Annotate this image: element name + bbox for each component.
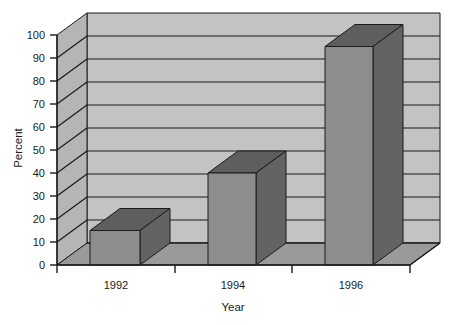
y-axis-title: Percent (12, 127, 24, 167)
bar-1994-front (208, 173, 256, 265)
y-tick-label: 0 (39, 259, 45, 271)
bar-1996-front (325, 47, 373, 266)
y-tick-label: 50 (33, 144, 45, 156)
y-tick-label: 90 (33, 52, 45, 64)
bar-1994[interactable] (208, 151, 286, 265)
y-tick-label: 100 (27, 29, 45, 41)
y-tick-labels: 100 90 80 70 60 50 40 30 20 10 0 (27, 29, 45, 271)
x-tick-label-1996: 1996 (339, 279, 363, 291)
chart-3d-scene (50, 13, 440, 273)
bar-1996[interactable] (325, 25, 403, 266)
x-tick-labels: 1992 1994 1996 (104, 279, 363, 291)
y-tick-marks (50, 35, 57, 265)
chart-canvas: 100 90 80 70 60 50 40 30 20 10 0 1992 19… (0, 0, 453, 325)
y-tick-label: 20 (33, 213, 45, 225)
x-tick-label-1994: 1994 (221, 279, 245, 291)
y-tick-label: 80 (33, 75, 45, 87)
y-tick-label: 40 (33, 167, 45, 179)
y-tick-label: 30 (33, 190, 45, 202)
y-tick-label: 60 (33, 121, 45, 133)
x-tick-label-1992: 1992 (104, 279, 128, 291)
y-tick-label: 70 (33, 98, 45, 110)
x-tick-marks (57, 265, 410, 273)
y-tick-label: 10 (33, 236, 45, 248)
bar-1996-side (373, 25, 403, 266)
bar-chart-figure: 100 90 80 70 60 50 40 30 20 10 0 1992 19… (0, 0, 453, 325)
x-axis-title: Year (221, 301, 244, 313)
bar-1992-front (90, 231, 140, 266)
